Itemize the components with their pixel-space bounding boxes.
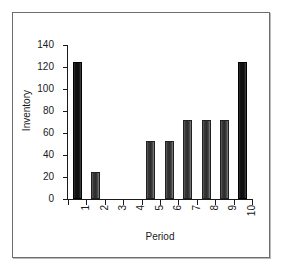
bar-series-inventory xyxy=(68,45,252,199)
bar-period-7 xyxy=(183,120,192,199)
bar-period-6 xyxy=(165,141,174,199)
x-axis-tick-label: 4 xyxy=(136,205,146,211)
x-axis-tick-label: 1 xyxy=(81,205,91,211)
x-axis-tick-label: 6 xyxy=(173,205,183,211)
bar-period-9 xyxy=(220,120,229,199)
x-axis-tick-label: 7 xyxy=(192,205,202,211)
bar-period-2 xyxy=(91,172,100,200)
x-axis-tick-label: 9 xyxy=(228,205,238,211)
y-axis-tick-label: 100 xyxy=(37,84,54,94)
x-axis-tick-label: 2 xyxy=(100,205,110,211)
x-axis-tick-label: 3 xyxy=(118,205,128,211)
y-axis-tick-label: 140 xyxy=(37,40,54,50)
bar-period-8 xyxy=(202,120,211,199)
bar-period-1 xyxy=(73,62,82,200)
x-axis-title: Period xyxy=(68,232,252,242)
x-axis-tick-label: 8 xyxy=(210,205,220,211)
y-axis-tick-label: 0 xyxy=(48,194,54,204)
y-axis-tick-label: 20 xyxy=(43,172,54,182)
x-axis-tick-label: 5 xyxy=(155,205,165,211)
bar-period-5 xyxy=(146,141,155,199)
x-axis-tick-labels: 12345678910 xyxy=(68,205,252,229)
y-axis-tick-label: 80 xyxy=(43,106,54,116)
y-axis-title: Inventory xyxy=(22,90,32,131)
bar-period-10 xyxy=(238,62,247,200)
x-axis-tick-label: 10 xyxy=(247,205,257,216)
y-axis-tick-label: 60 xyxy=(43,128,54,138)
bar-chart: 020406080100120140 12345678910 Inventory… xyxy=(0,0,283,278)
y-axis-tick-label: 120 xyxy=(37,62,54,72)
y-axis-tick-label: 40 xyxy=(43,150,54,160)
screenshot-root: 020406080100120140 12345678910 Inventory… xyxy=(0,0,283,278)
